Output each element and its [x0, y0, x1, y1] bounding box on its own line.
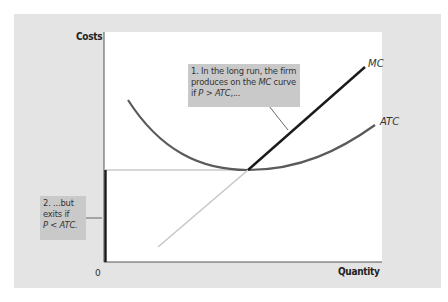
note-long-run: 1. In the long run, the firm produces on… — [188, 64, 300, 107]
mc-label: MC — [368, 58, 384, 69]
y-axis-label: Costs — [76, 31, 102, 42]
origin-label: 0 — [95, 268, 101, 278]
note1-line3: if P > ATC,... — [191, 88, 297, 99]
note2-line3: P < ATC. — [43, 220, 83, 231]
chart-svg — [0, 0, 448, 302]
atc-curve — [128, 100, 375, 170]
atc-label: ATC — [380, 116, 399, 127]
mc-lower-segment — [158, 170, 248, 247]
note1-connector — [269, 106, 288, 130]
note1-line1: 1. In the long run, the firm — [191, 66, 297, 77]
note2-line2: exits if — [43, 209, 83, 220]
x-axis-label: Quantity — [338, 266, 380, 277]
note-exit: 2. ...but exits if P < ATC. — [40, 196, 86, 240]
note2-line1: 2. ...but — [43, 198, 83, 209]
note1-line2: produces on the MC curve — [191, 77, 297, 88]
